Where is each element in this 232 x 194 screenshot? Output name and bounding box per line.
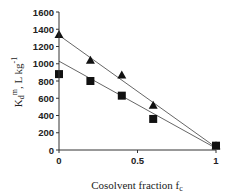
square-marker bbox=[86, 77, 94, 85]
fit-line-squares bbox=[59, 61, 216, 148]
axes: 0200400600800100012001400160000.51 bbox=[33, 7, 219, 167]
x-tick-label: 0.5 bbox=[131, 155, 145, 166]
y-tick-label: 800 bbox=[38, 76, 54, 87]
y-axis-title: Kdm, L kg-1 bbox=[10, 57, 26, 107]
square-marker bbox=[118, 92, 126, 100]
y-tick-label: 200 bbox=[38, 127, 54, 138]
x-axis-title: Cosolvent fraction fc bbox=[91, 179, 183, 193]
y-tick-label: 1600 bbox=[33, 7, 54, 18]
square-marker bbox=[149, 115, 157, 123]
y-tick-label: 1000 bbox=[33, 58, 54, 69]
y-tick-label: 1400 bbox=[33, 24, 54, 35]
x-tick-label: 1 bbox=[213, 155, 219, 166]
chart: 0200400600800100012001400160000.51 Cosol… bbox=[0, 0, 232, 194]
y-tick-label: 0 bbox=[49, 145, 54, 156]
y-tick-label: 400 bbox=[38, 110, 54, 121]
y-tick-label: 1200 bbox=[33, 41, 54, 52]
square-marker bbox=[212, 142, 220, 150]
fit-line-triangles bbox=[59, 35, 216, 147]
plot-area bbox=[55, 30, 221, 150]
x-tick-label: 0 bbox=[56, 155, 61, 166]
y-tick-label: 600 bbox=[38, 93, 54, 104]
triangle-marker bbox=[117, 70, 126, 78]
